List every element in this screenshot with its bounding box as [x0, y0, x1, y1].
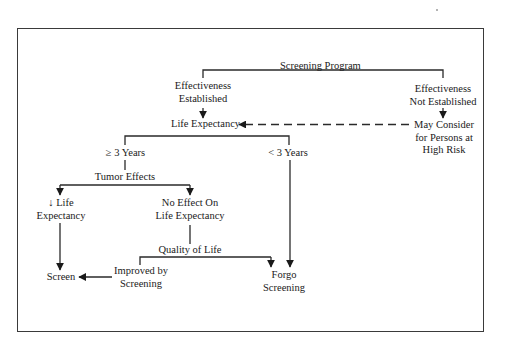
node-effectiveness-established: Effectiveness Established — [170, 80, 236, 105]
node-label: ≥ 3 Years — [103, 147, 148, 160]
node-label: for Persons at — [413, 132, 475, 145]
node-improved-by-screening: Improved by Screening — [113, 265, 169, 290]
node-label: No Effect On — [155, 197, 225, 210]
node-gte-3-years: ≥ 3 Years — [103, 147, 148, 160]
node-label: ↓ Life — [36, 197, 86, 210]
node-forgo-screening: Forgo Screening — [261, 269, 307, 294]
node-label: Not Established — [408, 96, 478, 109]
node-label: Screening — [261, 282, 307, 295]
node-label: < 3 Years — [266, 147, 310, 160]
node-label: Effectiveness — [408, 83, 478, 96]
node-screen: Screen — [45, 271, 77, 284]
node-may-consider: May Consider for Persons at High Risk — [413, 119, 475, 157]
node-label: Effectiveness — [170, 80, 236, 93]
node-label: May Consider — [413, 119, 475, 132]
node-label: Forgo — [261, 269, 307, 282]
node-label: Quality of Life — [158, 244, 222, 257]
node-label: Established — [170, 93, 236, 106]
node-label: Screen — [45, 271, 77, 284]
node-label: Expectancy — [36, 210, 86, 223]
node-label: Tumor Effects — [94, 171, 156, 184]
node-label: Screening Program — [280, 60, 361, 73]
node-label: High Risk — [413, 144, 475, 157]
node-quality-of-life: Quality of Life — [158, 244, 222, 257]
node-label: Screening — [113, 278, 169, 291]
connector-life-split — [125, 136, 289, 145]
diagram-canvas: Screening Program Effectiveness Establis… — [0, 0, 506, 337]
node-label: Life Expectancy — [155, 210, 225, 223]
node-decreased-life-expectancy: ↓ Life Expectancy — [36, 197, 86, 222]
connector-qol-to-improved — [140, 257, 271, 265]
node-no-effect: No Effect On Life Expectancy — [155, 197, 225, 222]
node-effectiveness-not-established: Effectiveness Not Established — [408, 83, 478, 108]
node-screening-program: Screening Program — [280, 60, 361, 73]
node-label: Improved by — [113, 265, 169, 278]
node-tumor-effects: Tumor Effects — [94, 171, 156, 184]
node-lt-3-years: < 3 Years — [266, 147, 310, 160]
connector-lines — [0, 0, 506, 337]
node-life-expectancy: Life Expectancy — [171, 118, 237, 131]
node-label: Life Expectancy — [171, 118, 237, 131]
